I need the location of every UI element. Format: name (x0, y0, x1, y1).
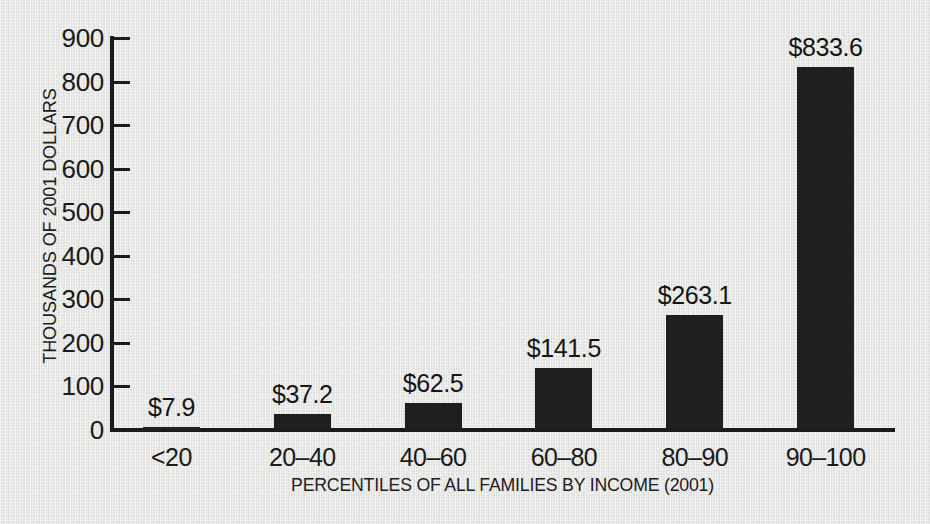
bar[interactable] (797, 67, 854, 430)
y-axis-tick (114, 342, 130, 345)
x-axis-line (110, 428, 895, 432)
y-axis-tick (114, 168, 130, 171)
bar-value-label: $141.5 (484, 336, 644, 361)
bar-chart: 0100200300400500600700800900 $7.9<20$37.… (0, 0, 930, 524)
y-axis-tick (114, 211, 130, 214)
y-axis-tick (114, 124, 130, 127)
bar[interactable] (405, 403, 462, 430)
x-axis-category-label: 90–100 (746, 445, 906, 470)
y-axis-tick (114, 298, 130, 301)
y-axis-tick (114, 81, 130, 84)
y-axis-title: THOUSANDS OF 2001 DOLLARS (39, 36, 61, 416)
y-axis-tick (114, 37, 130, 40)
bar[interactable] (666, 315, 723, 430)
bar-value-label: $263.1 (615, 283, 775, 308)
y-axis-tick (114, 385, 130, 388)
bar[interactable] (143, 427, 200, 430)
bar-value-label: $833.6 (746, 35, 906, 60)
y-axis-line (110, 36, 114, 432)
bar[interactable] (274, 414, 331, 430)
y-axis-tick (114, 255, 130, 258)
bar-value-label: $62.5 (353, 371, 513, 396)
y-axis-tick-label: 0 (30, 417, 104, 443)
x-axis-title: PERCENTILES OF ALL FAMILIES BY INCOME (2… (137, 474, 867, 496)
bar[interactable] (535, 368, 592, 430)
